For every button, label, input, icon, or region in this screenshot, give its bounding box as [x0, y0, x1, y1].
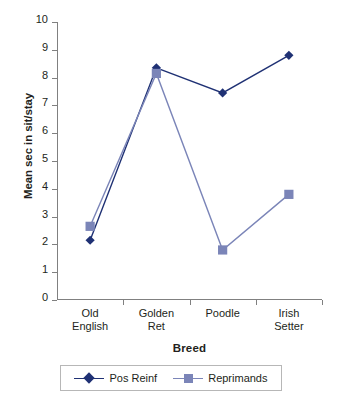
y-axis-tick-label: 6	[42, 125, 48, 136]
y-axis-tick-label: 8	[42, 70, 48, 81]
y-axis-tick-label: 0	[42, 292, 48, 303]
x-axis-tick	[256, 300, 257, 305]
x-axis-tick	[322, 300, 323, 305]
square-marker-icon	[173, 372, 203, 384]
x-axis-category-label: Golden Ret	[139, 307, 174, 333]
legend-label-reprimands: Reprimands	[208, 373, 267, 384]
line-chart-figure: Mean sec in sit/stay 012345678910 Old En…	[0, 0, 342, 408]
y-axis-tick-label: 4	[42, 181, 48, 192]
data-point-marker	[284, 51, 293, 60]
x-axis-title: Breed	[57, 342, 322, 354]
legend-item-reprimands[interactable]: Reprimands	[173, 372, 267, 384]
legend-label-pos-reinf: Pos Reinf	[109, 373, 157, 384]
data-point-marker	[86, 236, 95, 245]
y-axis-tick-label: 9	[42, 42, 48, 53]
x-axis-category-label: Irish Setter	[274, 307, 303, 333]
legend-item-pos-reinf[interactable]: Pos Reinf	[74, 372, 157, 384]
data-point-marker	[86, 222, 95, 231]
y-axis-tick-label: 2	[42, 236, 48, 247]
y-axis-tick-label: 1	[42, 264, 48, 275]
y-axis-tick-label: 7	[42, 97, 48, 108]
y-axis-tick: 0	[52, 300, 57, 301]
chart-legend: Pos Reinf Reprimands	[60, 365, 282, 391]
y-axis-title: Mean sec in sit/stay	[22, 46, 34, 246]
x-axis-category-label: Poodle	[205, 307, 239, 320]
y-axis-tick-label: 5	[42, 153, 48, 164]
x-axis-tick	[123, 300, 124, 305]
diamond-marker-icon	[74, 372, 104, 384]
series-plot	[57, 22, 322, 300]
y-axis-tick-label: 3	[42, 209, 48, 220]
data-point-marker	[152, 69, 161, 78]
data-point-marker	[284, 190, 293, 199]
y-axis-tick-label: 10	[36, 14, 48, 25]
plot-area: 012345678910 Old EnglishGolden RetPoodle…	[57, 22, 322, 300]
x-axis-category-label: Old English	[72, 307, 108, 333]
x-axis-tick	[190, 300, 191, 305]
data-point-marker	[218, 88, 227, 97]
data-point-marker	[218, 245, 227, 254]
series-line-pos-reinf	[90, 55, 289, 240]
